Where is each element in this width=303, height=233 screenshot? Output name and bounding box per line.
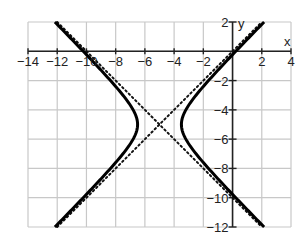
- x-tick-label: −12: [46, 54, 68, 69]
- x-tick-label: −4: [167, 54, 182, 69]
- y-tick-label: −8: [214, 161, 229, 176]
- y-tick-label: −6: [214, 132, 229, 147]
- tick-labels: −14−12−10−8−6−4−2242−2−4−6−8−10−12: [17, 15, 295, 233]
- y-axis-label: y: [238, 16, 245, 31]
- y-tick-label: 2: [221, 15, 228, 30]
- x-tick-label: 4: [287, 54, 294, 69]
- x-axis-label: x: [284, 34, 291, 49]
- y-tick-label: −4: [214, 103, 229, 118]
- x-tick-label: −6: [137, 54, 152, 69]
- x-tick-label: −14: [17, 54, 39, 69]
- y-tick-label: −12: [206, 220, 228, 233]
- plot-area: −14−12−10−8−6−4−2242−2−4−6−8−10−12 x y: [0, 0, 303, 233]
- hyperbola-chart: −14−12−10−8−6−4−2242−2−4−6−8−10−12 x y: [0, 0, 303, 233]
- x-tick-label: −8: [108, 54, 123, 69]
- x-tick-label: −2: [196, 54, 211, 69]
- x-tick-label: 2: [258, 54, 265, 69]
- asymptotes: [57, 22, 262, 227]
- left-branch: [55, 22, 138, 227]
- y-tick-label: −10: [206, 191, 228, 206]
- y-tick-label: −2: [214, 74, 229, 89]
- x-tick-label: −10: [75, 54, 97, 69]
